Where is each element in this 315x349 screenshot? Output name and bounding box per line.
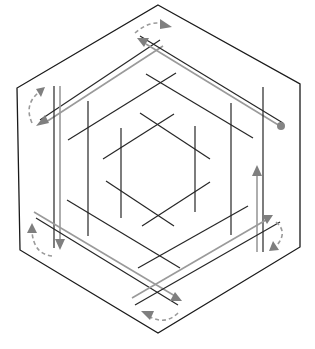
arrowhead-icon: [27, 223, 37, 233]
arrowhead-icon: [160, 19, 172, 29]
arrowhead-icon: [269, 241, 279, 251]
rotation-arrow-left: [29, 93, 38, 123]
rotation-arrow-top: [135, 23, 163, 33]
rotation-arrow-right: [276, 222, 282, 245]
rotation-arrow-bottom: [150, 313, 178, 320]
endpoint-dot-icon: [277, 122, 285, 130]
rotation-arrow-bottom-left: [32, 232, 52, 256]
arrowhead-down-icon: [55, 239, 65, 250]
rail-top-left: [36, 40, 163, 126]
arrowhead-down-left-icon: [36, 115, 49, 126]
arrowhead-icon: [36, 87, 45, 97]
arrowhead-up-icon: [252, 165, 262, 176]
middle-ring-lines: [67, 73, 253, 268]
rotation-arrows: [27, 19, 282, 320]
arrowhead-up-right-icon: [262, 215, 273, 224]
inner-ring-lines: [103, 113, 210, 226]
hexagon-diagram: [0, 0, 315, 349]
